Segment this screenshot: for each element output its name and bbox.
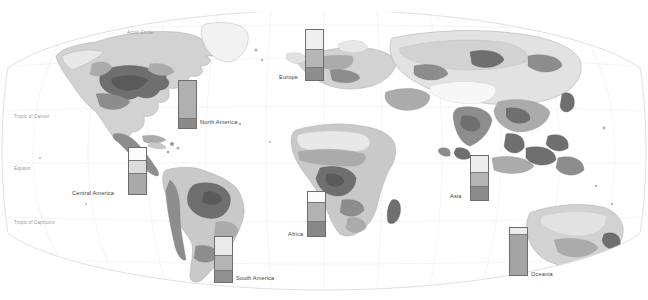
bar-segment-medium (308, 202, 325, 222)
bar-label-oceania: Oceania (531, 271, 553, 277)
bar-segment-medium (215, 255, 232, 270)
top-banner-mask (0, 0, 648, 12)
bar-segment-light (215, 237, 232, 255)
graticule-label-equator: Equator (14, 166, 31, 171)
bar-segment-dark (308, 221, 325, 236)
stacked-bar-central-america (128, 147, 147, 195)
bar-segment-medium (471, 172, 488, 186)
bar-segment-medium (306, 49, 323, 67)
bar-segment-white (129, 148, 146, 160)
bar-label-africa: Africa (288, 231, 303, 237)
bar-label-central-america: Central America (72, 190, 114, 196)
bar-label-south-america: South America (236, 275, 274, 281)
stacked-bar-europe (305, 29, 324, 81)
stacked-bar-oceania (509, 227, 528, 276)
bar-label-north-america: North America (200, 119, 237, 125)
world-map: Arctic Circle Tropic of Cancer Equator T… (0, 8, 648, 293)
graticule-label-tropic-of-capricorn: Tropic of Capricorn (14, 220, 55, 225)
bar-segment-dark (306, 67, 323, 80)
bar-segment-light (129, 160, 146, 172)
bar-segment-medium (179, 81, 196, 118)
bar-segment-medium (129, 173, 146, 194)
bar-segment-white (308, 192, 325, 202)
stacked-bar-north-america (178, 80, 197, 129)
stacked-bar-asia (470, 155, 489, 201)
world-map-figure: Arctic Circle Tropic of Cancer Equator T… (0, 0, 648, 300)
bar-label-asia: Asia (450, 193, 461, 199)
bar-segment-light (306, 30, 323, 49)
bar-segment-dark (471, 186, 488, 200)
bar-segment-light (471, 156, 488, 172)
stacked-bar-africa (307, 191, 326, 237)
bar-segment-dark (179, 118, 196, 128)
bar-label-europe: Europe (279, 74, 298, 80)
bar-segment-dark (215, 270, 232, 282)
graticule-label-tropic-of-cancer: Tropic of Cancer (14, 114, 49, 119)
map-svg (0, 8, 648, 293)
stacked-bar-south-america (214, 236, 233, 283)
bar-segment-medium (510, 234, 527, 275)
graticule-label-arctic-circle: Arctic Circle (127, 30, 153, 35)
